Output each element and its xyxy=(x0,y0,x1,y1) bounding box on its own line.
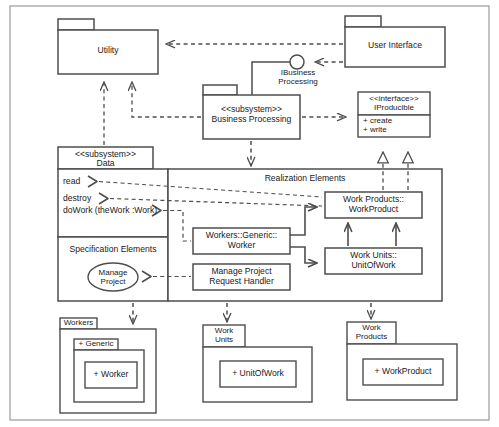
interface-iproducible[interactable] xyxy=(358,92,430,137)
use-case-manage-project[interactable] xyxy=(88,263,138,291)
class-work-product[interactable] xyxy=(325,192,422,218)
diagram-canvas xyxy=(0,0,499,427)
class-unit-of-work[interactable] xyxy=(325,248,422,274)
uml-diagram: Utility User Interface <<subsystem>> Bus… xyxy=(0,0,499,427)
class-manage-project-request-handler[interactable] xyxy=(193,264,290,290)
package-workers[interactable] xyxy=(60,318,156,413)
class-worker[interactable] xyxy=(193,228,290,254)
